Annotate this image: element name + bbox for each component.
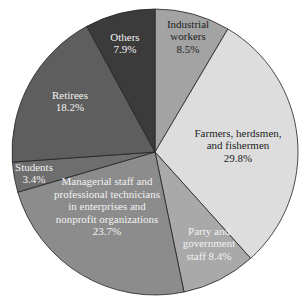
pie-chart: Industrialworkers8.5%Farmers, herdsmen,a… — [0, 0, 306, 299]
pie-slices — [12, 9, 298, 295]
slice-label: Party andgovernmentstaff 8.4% — [183, 225, 236, 262]
slice-label: Others7.9% — [110, 31, 139, 56]
slice-label: Retirees18.2% — [52, 89, 88, 114]
